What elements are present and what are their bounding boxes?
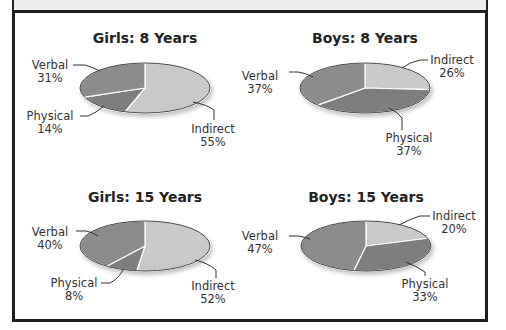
slice-indirect: [365, 63, 430, 90]
label-indirect: Indirect: [432, 209, 476, 223]
label-physical-pct: 8%: [65, 289, 83, 303]
pie-boys-8-years: Boys: 8 Years Verbal 37% Indirect 26% Ph…: [242, 30, 474, 158]
pie-boys-15-years: Boys: 15 Years Verbal 47% Indirect 20% P…: [242, 189, 476, 304]
label-physical-pct: 14%: [37, 122, 63, 136]
label-physical: Physical: [402, 277, 449, 291]
chart-title: Girls: 8 Years: [93, 30, 197, 46]
leader-line: [73, 65, 100, 71]
slice-verbal: [301, 221, 366, 271]
label-physical: Physical: [27, 109, 74, 123]
leader-line: [402, 60, 428, 68]
label-verbal: Verbal: [32, 225, 68, 239]
chart-title: Girls: 15 Years: [88, 189, 202, 205]
label-verbal: Verbal: [32, 58, 68, 72]
label-physical: Physical: [386, 131, 433, 145]
slice-indirect: [137, 221, 210, 271]
label-indirect-pct: 20%: [441, 222, 467, 236]
label-physical: Physical: [51, 276, 98, 290]
label-verbal-pct: 47%: [247, 242, 273, 256]
pie-charts-figure: Girls: 8 Years Verbal 31% Physical 14% I…: [0, 0, 506, 330]
chart-title: Boys: 8 Years: [312, 30, 418, 46]
leader-line: [101, 270, 123, 283]
label-physical-pct: 33%: [412, 290, 438, 304]
leader-line: [195, 260, 216, 278]
leader-line: [399, 216, 430, 225]
pie-girls-8-years: Girls: 8 Years Verbal 31% Physical 14% I…: [27, 30, 236, 149]
label-indirect: Indirect: [430, 53, 474, 67]
leader-line: [80, 106, 104, 116]
chart-title: Boys: 15 Years: [308, 189, 424, 205]
pie-slices: [300, 63, 430, 113]
label-verbal-pct: 40%: [37, 238, 63, 252]
label-verbal-pct: 31%: [37, 71, 63, 85]
leader-line: [193, 102, 214, 120]
label-physical-pct: 37%: [396, 144, 422, 158]
label-indirect: Indirect: [191, 122, 235, 136]
pie-slices: [301, 221, 431, 271]
pie-girls-15-years: Girls: 15 Years Verbal 40% Physical 8% I…: [32, 189, 235, 306]
label-indirect-pct: 26%: [439, 66, 465, 80]
label-verbal: Verbal: [242, 229, 278, 243]
label-indirect-pct: 52%: [200, 292, 226, 306]
label-indirect: Indirect: [191, 279, 235, 293]
label-verbal-pct: 37%: [247, 82, 273, 96]
label-verbal: Verbal: [242, 69, 278, 83]
label-indirect-pct: 55%: [200, 135, 226, 149]
pie-slices: [80, 221, 210, 271]
